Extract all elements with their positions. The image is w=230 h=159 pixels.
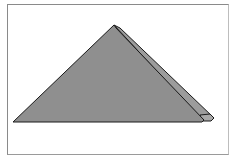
folded-triangle-diagram (0, 0, 230, 159)
triangle-front-face (13, 25, 204, 122)
